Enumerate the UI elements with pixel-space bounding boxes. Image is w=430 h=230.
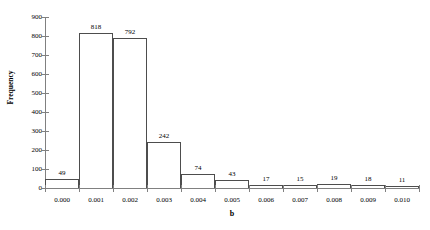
x-axis-tick-mark [385,185,386,192]
y-axis-tick-label: 900 [20,14,42,21]
y-axis-tick-label: 400 [20,109,42,116]
histogram-bar [113,38,147,189]
bar-value-label: 242 [144,132,184,140]
histogram-bar [181,174,215,189]
y-axis-tick-mark [41,55,49,56]
y-axis-tick-mark [41,74,49,75]
y-axis-tick-mark [41,36,49,37]
histogram-bar [147,142,181,189]
x-axis-tick-mark [79,185,80,192]
x-axis-tick-mark [351,185,352,192]
y-axis-tick-label: 300 [20,128,42,135]
y-axis-title: Frequency [6,53,15,123]
x-axis-title: b [45,209,419,218]
x-axis-tick-mark [45,185,46,192]
y-axis-tick-label: 200 [20,147,42,154]
y-axis-tick-label: 600 [20,71,42,78]
y-axis-tick-mark [41,112,49,113]
x-axis-tick-mark [215,185,216,192]
y-axis-tick-label: 100 [20,166,42,173]
x-axis-tick-mark [419,185,420,192]
y-axis-tick-mark [41,17,49,18]
bar-value-label: 792 [110,28,150,36]
x-axis-tick-mark [181,185,182,192]
x-axis-line [45,188,419,189]
y-axis-tick-mark [41,93,49,94]
y-axis-tick-label: 500 [20,90,42,97]
x-axis-tick-mark [283,185,284,192]
y-axis-tick-label: 700 [20,52,42,59]
x-axis-tick-mark [249,185,250,192]
y-axis-tick-mark [41,131,49,132]
y-axis-line [45,17,46,189]
bar-value-label: 49 [42,169,82,177]
x-axis-tick-label: 0.010 [380,196,424,204]
histogram-bar [79,33,113,189]
x-axis-tick-mark [317,185,318,192]
x-axis-tick-mark [147,185,148,192]
y-axis-tick-label: 0 [20,185,42,192]
histogram-chart: Frequency 0100200300400500600700800900 4… [0,0,430,230]
y-axis-tick-mark [41,150,49,151]
x-axis-tick-mark [113,185,114,192]
y-axis-tick-label: 800 [20,33,42,40]
bar-value-label: 11 [382,176,422,184]
